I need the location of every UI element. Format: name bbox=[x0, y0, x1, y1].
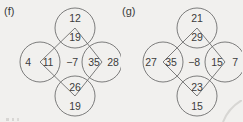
value-right-outer-f: 28 bbox=[107, 57, 118, 68]
value-right-inner-g: 15 bbox=[211, 57, 222, 68]
value-left-inner-g: 35 bbox=[165, 57, 176, 68]
value-left-inner-f: 11 bbox=[43, 57, 54, 68]
value-bottom-outer-f: 19 bbox=[69, 101, 80, 112]
value-center-f: −7 bbox=[66, 57, 78, 68]
scan-artifact-g bbox=[218, 100, 242, 122]
diagram-shapes-f bbox=[0, 0, 121, 122]
puzzle-diagram-f: (f) 12 19 4 11 35 28 26 19 −7 bbox=[0, 0, 121, 122]
value-bottom-inner-f: 26 bbox=[69, 82, 80, 93]
value-left-outer-f: 4 bbox=[25, 57, 31, 68]
value-top-inner-f: 19 bbox=[69, 32, 80, 43]
value-right-outer-g: 7 bbox=[232, 57, 238, 68]
value-bottom-outer-g: 15 bbox=[191, 101, 202, 112]
value-top-outer-f: 12 bbox=[69, 13, 80, 24]
scan-artifact-f bbox=[6, 118, 20, 121]
value-top-outer-g: 21 bbox=[191, 13, 202, 24]
puzzle-sheet: (f) 12 19 4 11 35 28 26 19 −7 (g bbox=[0, 0, 243, 122]
value-right-inner-f: 35 bbox=[88, 57, 99, 68]
puzzle-diagram-g: (g) 21 29 27 35 15 7 23 15 −8 bbox=[121, 0, 242, 122]
value-left-outer-g: 27 bbox=[145, 57, 156, 68]
value-top-inner-g: 29 bbox=[191, 32, 202, 43]
value-center-g: −8 bbox=[188, 57, 200, 68]
value-bottom-inner-g: 23 bbox=[191, 82, 202, 93]
